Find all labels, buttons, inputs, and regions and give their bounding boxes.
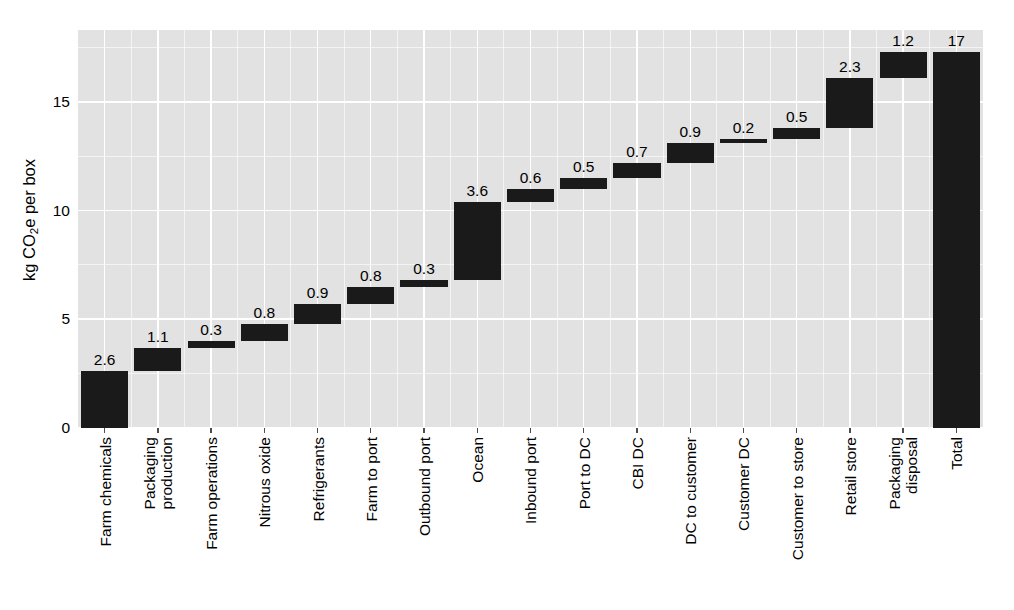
bar[interactable] xyxy=(400,280,447,287)
x-axis-tick-label: Farm operations xyxy=(184,437,237,607)
gridline-major-x xyxy=(690,30,691,428)
x-axis-tick-label-text: Refrigerants xyxy=(309,437,326,521)
bar-value-label: 2.6 xyxy=(78,351,131,368)
bar[interactable] xyxy=(613,163,660,178)
x-axis-tick-mark xyxy=(743,428,744,433)
gridline-major-x xyxy=(636,30,637,428)
y-axis-tick-label: 15 xyxy=(10,94,70,110)
bar-value-label: 0.2 xyxy=(717,119,770,136)
bar[interactable] xyxy=(188,341,235,348)
gridline-major-x xyxy=(796,30,797,428)
bar[interactable] xyxy=(773,128,820,139)
x-axis-tick-label-text: Customer DC xyxy=(735,437,752,531)
gridline-minor-x xyxy=(716,30,717,428)
bar[interactable] xyxy=(667,143,714,163)
gridline-minor-x xyxy=(876,30,877,428)
x-axis-tick-label: Port to DC xyxy=(557,437,610,607)
bar-value-label: 0.9 xyxy=(291,284,344,301)
plot-panel: 2.61.10.30.80.90.80.33.60.60.50.70.90.20… xyxy=(78,30,983,428)
gridline-major-x xyxy=(530,30,531,428)
bar-value-label: 0.6 xyxy=(504,169,557,186)
x-axis-tick-mark xyxy=(370,428,371,433)
x-axis-tick-label-text: Packagingdisposal xyxy=(886,437,920,509)
bar[interactable] xyxy=(294,304,341,324)
gridline-minor-x xyxy=(290,30,291,428)
x-axis-tick-label-text: Farm to port xyxy=(362,437,379,521)
gridline-minor-x xyxy=(770,30,771,428)
x-axis-tick-label: CBI DC xyxy=(610,437,663,607)
bar-value-label: 0.3 xyxy=(184,321,237,338)
bar[interactable] xyxy=(826,78,873,128)
x-axis-tick-labels: Farm chemicalsPackagingproductionFarm op… xyxy=(78,428,983,610)
x-axis-tick-label: Customer to store xyxy=(770,437,823,607)
bar[interactable] xyxy=(134,348,181,372)
x-axis-tick-label-text: Ocean xyxy=(469,437,486,483)
gridline-minor-x xyxy=(450,30,451,428)
x-axis-tick-label: Refrigerants xyxy=(291,437,344,607)
bar[interactable] xyxy=(241,324,288,341)
x-axis-tick-mark xyxy=(849,428,850,433)
bar[interactable] xyxy=(720,139,767,143)
bar-value-label: 3.6 xyxy=(451,182,504,199)
bar-value-label: 0.8 xyxy=(238,304,291,321)
gridline-major-x xyxy=(583,30,584,428)
y-axis-tick-labels: 051015 xyxy=(8,0,70,610)
bar[interactable] xyxy=(81,371,128,428)
gridline-minor-x xyxy=(610,30,611,428)
x-axis-tick-label-text: CBI DC xyxy=(628,437,645,490)
bar-value-label: 17 xyxy=(930,32,983,49)
x-axis-tick-label: Packagingdisposal xyxy=(877,437,930,607)
bar-value-label: 0.5 xyxy=(770,108,823,125)
x-axis-tick-mark xyxy=(956,428,957,433)
bar[interactable] xyxy=(880,52,927,78)
x-axis-tick-label: Nitrous oxide xyxy=(238,437,291,607)
y-axis-tick-label: 5 xyxy=(10,311,70,327)
x-axis-tick-label-text: Total xyxy=(948,437,965,470)
x-axis-tick-label: Outbound port xyxy=(397,437,450,607)
bar-value-label: 1.2 xyxy=(877,32,930,49)
gridline-major-x xyxy=(210,30,211,428)
gridline-minor-x xyxy=(929,30,930,428)
x-axis-tick-label-text: Farm chemicals xyxy=(96,437,113,546)
bar-value-label: 0.8 xyxy=(344,267,397,284)
x-axis-tick-mark xyxy=(477,428,478,433)
gridline-minor-x xyxy=(184,30,185,428)
x-axis-tick-label-text: Customer to store xyxy=(788,437,805,560)
bar[interactable] xyxy=(560,178,607,189)
gridline-major-x xyxy=(370,30,371,428)
bar[interactable] xyxy=(933,52,980,428)
x-axis-tick-mark xyxy=(796,428,797,433)
bar[interactable] xyxy=(347,287,394,304)
x-axis-tick-mark xyxy=(264,428,265,433)
x-axis-tick-label: DC to customer xyxy=(664,437,717,607)
y-axis-tick-label: 0 xyxy=(10,420,70,436)
bar[interactable] xyxy=(454,202,501,280)
gridline-minor-x xyxy=(823,30,824,428)
x-axis-tick-label: Customer DC xyxy=(717,437,770,607)
x-axis-tick-label-text: Outbound port xyxy=(416,437,433,536)
x-axis-tick-label-text: Farm operations xyxy=(203,437,220,550)
bar-value-label: 2.3 xyxy=(823,58,876,75)
x-axis-tick-mark xyxy=(210,428,211,433)
x-axis-tick-mark xyxy=(902,428,903,433)
x-axis-tick-label-text: Inbound port xyxy=(522,437,539,524)
bar-value-label: 0.7 xyxy=(610,143,663,160)
bar[interactable] xyxy=(507,189,554,202)
x-axis-tick-label-text: Nitrous oxide xyxy=(256,437,273,527)
gridline-minor-x xyxy=(344,30,345,428)
gridline-minor-x xyxy=(503,30,504,428)
bar-value-label: 0.9 xyxy=(664,123,717,140)
x-axis-tick-mark xyxy=(690,428,691,433)
bar-value-label: 1.1 xyxy=(131,328,184,345)
waterfall-chart: kg CO2e per box 051015 2.61.10.30.80.90.… xyxy=(0,0,1014,610)
y-axis-tick-label: 10 xyxy=(10,203,70,219)
x-axis-tick-mark xyxy=(317,428,318,433)
gridline-minor-x xyxy=(663,30,664,428)
gridline-major-x xyxy=(902,30,903,428)
x-axis-tick-mark xyxy=(423,428,424,433)
x-axis-tick-label-text: Packagingproduction xyxy=(141,437,175,509)
x-axis-tick-mark xyxy=(636,428,637,433)
gridline-minor-x xyxy=(397,30,398,428)
x-axis-tick-label-text: DC to customer xyxy=(682,437,699,545)
x-axis-tick-mark xyxy=(583,428,584,433)
